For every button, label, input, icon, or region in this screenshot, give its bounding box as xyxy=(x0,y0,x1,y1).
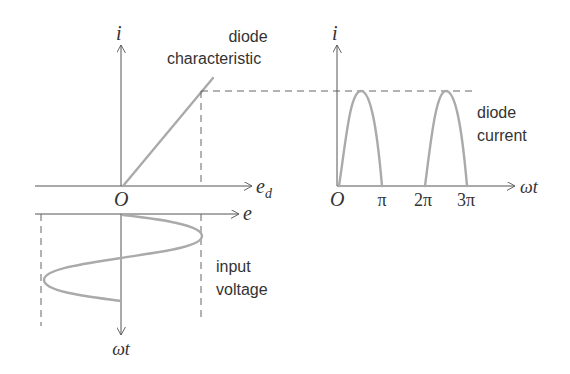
current-pulse-2 xyxy=(425,91,467,186)
i-axis-label-right: i xyxy=(332,22,338,44)
input-voltage-sine xyxy=(44,215,202,301)
e-axis-label: e xyxy=(243,202,252,224)
current-pulse-1 xyxy=(339,91,382,186)
current-label-line1: diode xyxy=(477,104,516,121)
tick-label-pi: π xyxy=(377,190,386,210)
input-label-line1: input xyxy=(216,258,251,275)
characteristic-label-line1: diode xyxy=(228,28,267,45)
origin-label-left: O xyxy=(114,188,128,210)
tick-label-2pi: 2π xyxy=(414,190,432,210)
wt-axis-label-down: ωt xyxy=(112,339,131,359)
diode-rectification-diagram: i ed O diode characteristic e ωt input v… xyxy=(0,0,570,374)
characteristic-label-line2: characteristic xyxy=(167,50,261,67)
i-axis-label-left: i xyxy=(116,22,122,44)
wt-axis-label-right: ωt xyxy=(520,177,539,197)
ed-axis-label: ed xyxy=(256,175,273,201)
characteristic-panel: i ed O diode characteristic xyxy=(35,22,476,210)
tick-label-3pi: 3π xyxy=(457,190,475,210)
input-voltage-panel: e ωt input voltage xyxy=(35,202,268,359)
diode-characteristic-line xyxy=(123,78,213,186)
current-label-line2: current xyxy=(477,127,527,144)
origin-label-right: O xyxy=(330,188,344,210)
diode-current-panel: i ωt O π 2π 3π diode current xyxy=(330,22,539,210)
input-label-line2: voltage xyxy=(216,281,268,298)
